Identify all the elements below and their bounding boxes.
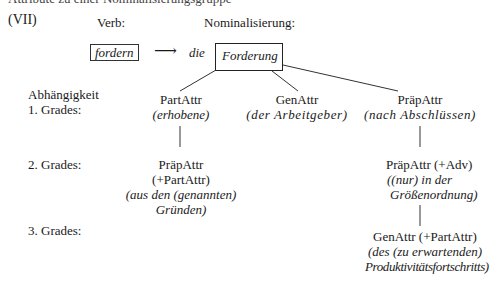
- level-label-3: 3. Grades:: [28, 223, 81, 238]
- level-label-2: 2. Grades:: [28, 157, 81, 172]
- node-l2-praepattr-extra: (+PartAttr): [152, 172, 210, 187]
- node-l2-praepattr-adv-example-1: ((nur) in der: [387, 172, 452, 187]
- node-partattr-example: (erhobene): [153, 107, 210, 122]
- node-l2-praepattr-example-1: (aus den (genannten): [126, 187, 236, 202]
- node-l3-genattr-example-1: (des (zu erwartenden): [368, 244, 482, 259]
- node-l2-praepattr-adv: PräpAttr (+Adv): [386, 157, 472, 172]
- level-label-abh: Abhängigkeit: [28, 87, 99, 102]
- node-partattr: PartAttr: [160, 92, 202, 107]
- node-l3-genattr: GenAttr (+PartAttr): [373, 229, 477, 244]
- node-praepattr: PräpAttr: [398, 92, 443, 107]
- node-genattr: GenAttr: [276, 92, 319, 107]
- node-genattr-example: (der Arbeitgeber): [246, 107, 347, 122]
- node-l2-praepattr: PräpAttr: [159, 157, 204, 172]
- level-label-1: 1. Grades:: [28, 102, 81, 117]
- node-l2-praepattr-adv-example-2: Größenordnung): [390, 187, 478, 202]
- node-praepattr-example: (nach Abschlüssen): [364, 107, 476, 122]
- node-l2-praepattr-example-2: Gründen): [156, 202, 207, 217]
- node-l3-genattr-example-2: Produktivitätsfortschritts): [365, 259, 489, 274]
